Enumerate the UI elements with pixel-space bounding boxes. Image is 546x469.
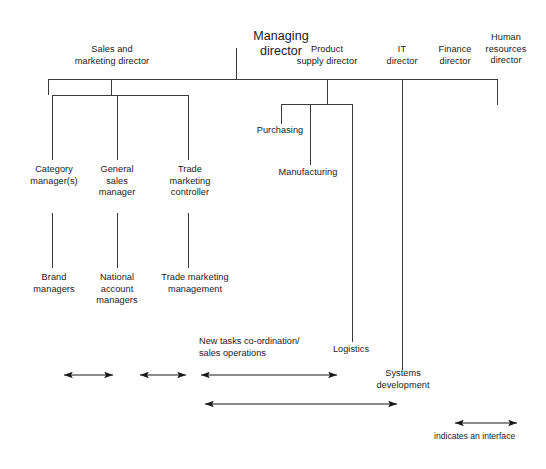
node-brand-managers: Brand managers bbox=[17, 272, 91, 295]
node-trade-marketing-management-label: Trade marketing management bbox=[161, 272, 228, 294]
node-purchasing-label: Purchasing bbox=[257, 125, 303, 135]
node-manufacturing-label: Manufacturing bbox=[279, 167, 338, 177]
node-systems-development-label: Systems development bbox=[376, 368, 429, 390]
node-general-sales-manager: General sales manager bbox=[82, 164, 152, 199]
node-national-account-managers: National account managers bbox=[83, 272, 151, 307]
annotation-new-tasks-annotation: New tasks co-ordination/ sales operation… bbox=[199, 336, 300, 359]
annotation-label: New tasks co-ordination/ sales operation… bbox=[199, 336, 300, 358]
node-product-supply-director: Product supply director bbox=[279, 44, 375, 67]
node-human-resources-director: Human resources director bbox=[473, 32, 539, 67]
node-purchasing: Purchasing bbox=[251, 125, 309, 137]
node-systems-development: Systems development bbox=[366, 368, 440, 391]
node-logistics: Logistics bbox=[325, 344, 377, 356]
node-trade-marketing-controller: Trade marketing controller bbox=[152, 164, 228, 199]
node-logistics-label: Logistics bbox=[333, 344, 369, 354]
org-chart-svg bbox=[0, 0, 546, 469]
node-category-managers-label: Category manager(s) bbox=[30, 164, 77, 186]
node-national-account-managers-label: National account managers bbox=[96, 272, 137, 305]
node-manufacturing: Manufacturing bbox=[272, 167, 344, 179]
org-chart-diagram: Managing director Sales and marketing di… bbox=[0, 0, 546, 469]
node-finance-director-label: Finance director bbox=[438, 44, 471, 66]
legend-interface-label-wrap: indicates an interface bbox=[434, 431, 515, 442]
node-brand-managers-label: Brand managers bbox=[33, 272, 74, 294]
node-general-sales-manager-label: General sales manager bbox=[99, 164, 136, 197]
node-product-supply-director-label: Product supply director bbox=[297, 44, 358, 66]
node-human-resources-director-label: Human resources director bbox=[486, 32, 527, 65]
node-sales-and-marketing-director: Sales and marketing director bbox=[56, 44, 168, 67]
node-it-director-label: IT director bbox=[386, 44, 417, 66]
connector-lines bbox=[48, 48, 497, 370]
interface-arrow-lines bbox=[64, 375, 517, 423]
node-it-director: IT director bbox=[376, 44, 428, 67]
node-trade-marketing-controller-label: Trade marketing controller bbox=[170, 164, 211, 197]
legend-interface-label: indicates an interface bbox=[434, 431, 515, 441]
node-trade-marketing-management: Trade marketing management bbox=[146, 272, 244, 295]
node-sales-and-marketing-director-label: Sales and marketing director bbox=[75, 44, 149, 66]
